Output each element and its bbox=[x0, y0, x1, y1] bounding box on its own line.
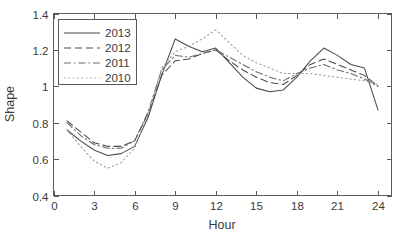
x-tick-label: 6 bbox=[132, 200, 138, 212]
line-chart: 0.40.60.811.21.4 03691215182124 Hour Sha… bbox=[0, 0, 405, 234]
legend-label-2011: 2011 bbox=[105, 57, 130, 69]
legend-label-2013: 2013 bbox=[105, 27, 131, 39]
chart-legend: 2013201220112010 bbox=[59, 20, 137, 85]
x-tick-label: 18 bbox=[291, 200, 304, 212]
legend-label-2010: 2010 bbox=[105, 72, 131, 84]
y-tick-label: 0.4 bbox=[33, 191, 50, 203]
x-tick-label: 15 bbox=[250, 200, 263, 212]
y-axis-tick-labels: 0.40.60.811.21.4 bbox=[33, 9, 50, 203]
legend-label-2012: 2012 bbox=[105, 42, 131, 54]
y-tick-label: 0.6 bbox=[33, 154, 49, 166]
y-tick-label: 0.8 bbox=[33, 118, 49, 130]
x-tick-label: 9 bbox=[172, 200, 178, 212]
y-tick-label: 1 bbox=[42, 81, 48, 93]
y-axis-title: Shape bbox=[3, 86, 17, 122]
x-tick-label: 3 bbox=[91, 200, 97, 212]
y-tick-label: 1.2 bbox=[33, 45, 49, 57]
y-tick-label: 1.4 bbox=[33, 9, 50, 21]
x-tick-label: 21 bbox=[331, 200, 344, 212]
x-axis-tick-labels: 03691215182124 bbox=[51, 200, 385, 212]
x-tick-label: 0 bbox=[51, 200, 57, 212]
x-tick-label: 24 bbox=[372, 200, 385, 212]
chart-figure: 0.40.60.811.21.4 03691215182124 Hour Sha… bbox=[0, 0, 405, 234]
x-tick-label: 12 bbox=[210, 200, 223, 212]
x-axis-title: Hour bbox=[208, 218, 235, 232]
